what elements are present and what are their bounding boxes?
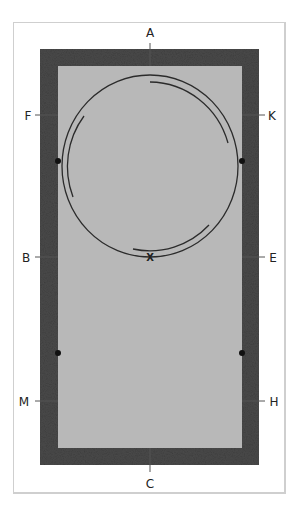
marker-f: F [25, 109, 32, 123]
marker-m: M [19, 395, 29, 409]
marker-k: K [268, 109, 277, 123]
marker-h: H [269, 395, 278, 409]
marker-a: A [146, 26, 155, 40]
marker-c: C [146, 477, 154, 491]
marker-b: B [22, 251, 30, 265]
marker-e: E [269, 251, 277, 265]
arena-diagram: X A F K B E M H C [0, 0, 303, 519]
center-mark-x: X [146, 252, 154, 263]
